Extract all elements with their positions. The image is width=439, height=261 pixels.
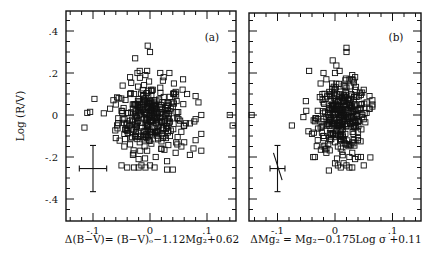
x-axis-title-b: ΔMg₂ = Mg₂−0.175Log σ +0.11 [250, 233, 421, 245]
data-point [334, 63, 339, 68]
data-point [324, 77, 329, 82]
y-tick-label: 0 [52, 110, 58, 121]
error-bar [270, 145, 285, 191]
error-bar [79, 145, 106, 191]
data-point [129, 80, 134, 85]
data-point [147, 49, 152, 54]
data-point [301, 115, 306, 120]
data-point [193, 94, 198, 99]
data-point [176, 109, 181, 114]
data-point [146, 79, 151, 84]
data-point [165, 167, 170, 172]
data-point [175, 135, 180, 140]
data-point [315, 108, 320, 113]
panel-label: (b) [389, 31, 404, 43]
data-point [326, 168, 331, 173]
data-point [145, 43, 150, 48]
data-point [101, 111, 106, 116]
panel-a: -.10.1.4.20-.2-.4(a) [45, 11, 236, 236]
data-point [82, 125, 87, 130]
data-point [142, 156, 147, 161]
data-point [92, 96, 97, 101]
data-point [311, 155, 316, 160]
panel-label: (a) [205, 31, 219, 43]
data-point [108, 106, 113, 111]
scatter-points [82, 43, 235, 172]
data-point [191, 146, 196, 151]
figure: -.10.1.4.20-.2-.4(a) -.10.1(b) Log (R/V)… [0, 0, 439, 261]
data-point [125, 165, 130, 170]
data-point [170, 167, 175, 172]
data-point [318, 81, 323, 86]
data-point [133, 56, 138, 61]
data-point [165, 159, 170, 164]
y-tick-label: .4 [48, 26, 58, 37]
data-point [199, 131, 204, 136]
y-axis-title: Log (R/V) [14, 91, 26, 142]
data-point [181, 102, 186, 107]
data-point [289, 123, 294, 128]
y-tick-label: .2 [48, 68, 58, 79]
data-point [199, 112, 204, 117]
data-point [136, 157, 141, 162]
panel-b: -.10.1(b) [249, 13, 421, 236]
data-point [304, 108, 309, 113]
y-tick-label: -.2 [45, 152, 58, 163]
data-point [368, 155, 373, 160]
x-axis-title-a: Δ(B−V)= (B−V)ₒ−1.12Mg₂+0.62 [65, 233, 239, 245]
data-point [120, 83, 125, 88]
data-point [303, 99, 308, 104]
data-point [127, 75, 132, 80]
data-point [167, 70, 172, 75]
data-point [199, 148, 204, 153]
data-point [158, 85, 163, 90]
data-point [193, 138, 198, 143]
data-point [127, 142, 132, 147]
data-point [122, 144, 127, 149]
scatter-points [249, 45, 375, 173]
data-point [330, 58, 335, 63]
data-point [307, 68, 312, 73]
data-point [361, 163, 366, 168]
data-point [179, 129, 184, 134]
data-point [122, 137, 127, 142]
data-point [321, 70, 326, 75]
data-point [153, 154, 158, 159]
data-point [312, 154, 317, 159]
data-point [173, 150, 178, 155]
data-point [315, 138, 320, 143]
data-point [119, 163, 124, 168]
data-point [171, 81, 176, 86]
y-tick-label: -.4 [45, 194, 58, 205]
data-point [187, 152, 192, 157]
data-point [196, 100, 201, 105]
data-point [174, 110, 179, 115]
data-point [363, 120, 368, 125]
data-point [180, 77, 185, 82]
